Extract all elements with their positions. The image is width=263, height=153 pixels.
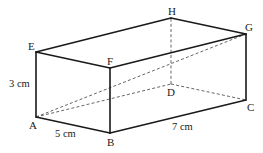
vertex-label-G: G xyxy=(245,21,253,33)
dimension-height: 3 cm xyxy=(9,78,30,89)
vertex-label-E: E xyxy=(28,40,35,52)
vertex-label-F: F xyxy=(107,55,113,67)
diagonal-AG-hidden xyxy=(36,34,246,117)
edge-FG xyxy=(110,34,246,68)
vertex-label-B: B xyxy=(107,136,114,148)
dimension-length: 7 cm xyxy=(172,121,193,132)
vertex-label-D: D xyxy=(167,86,175,98)
dimension-width: 5 cm xyxy=(55,128,76,139)
edge-AD-hidden xyxy=(36,84,171,117)
edge-HE xyxy=(36,18,171,52)
cuboid-diagram: A B C D E F H G 3 cm 5 cm 7 cm xyxy=(0,0,263,153)
edge-GH xyxy=(171,18,246,34)
vertex-label-C: C xyxy=(247,101,254,113)
vertex-label-H: H xyxy=(168,5,176,17)
edge-EF xyxy=(36,52,110,68)
vertex-label-A: A xyxy=(29,119,37,131)
edge-DC-hidden xyxy=(171,84,246,100)
